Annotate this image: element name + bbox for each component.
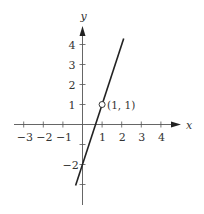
x-tick-label: −2 (36, 131, 52, 144)
x-tick-label: 2 (119, 131, 126, 144)
x-axis-arrow-icon (171, 122, 181, 128)
x-tick-label: −3 (17, 131, 33, 144)
y-tick-label: 1 (69, 99, 76, 112)
point-label: (1, 1) (107, 99, 135, 111)
y-axis-label: y (80, 10, 88, 23)
y-tick-label: 2 (69, 79, 76, 92)
x-tick-label: 1 (99, 131, 106, 144)
y-tick-label: −2 (63, 159, 79, 172)
x-tick-label: −1 (56, 131, 72, 144)
y-axis-arrow-icon (80, 26, 86, 36)
ticks: −3−2−11234−21234 (17, 39, 165, 185)
x-tick-label: 4 (158, 131, 165, 144)
y-tick-label: 3 (69, 59, 76, 72)
annotations: (1, 1) (99, 99, 135, 111)
y-tick-label: 4 (69, 39, 76, 52)
x-axis-label: x (186, 119, 193, 132)
x-tick-label: 3 (138, 131, 145, 144)
open-point-marker (99, 102, 105, 108)
graph: xy −3−2−11234−21234 (1, 1) (0, 0, 204, 214)
